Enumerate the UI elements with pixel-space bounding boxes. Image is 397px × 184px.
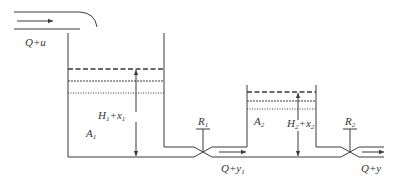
two-tank-diagram: Q+u H1+x1 A1 R1 Q+y1 H2+: [0, 0, 397, 184]
valve-1-label: R1: [197, 115, 208, 129]
tank-1-height-label: H1+x1: [97, 109, 125, 123]
outflow-1-label: Q+y1: [221, 162, 245, 176]
tank-2-height-label: H2+x2: [286, 117, 315, 131]
valve-1-stem: [196, 129, 210, 152]
tank-1: [68, 33, 164, 157]
outflow-2-label: Q+y: [361, 162, 381, 174]
valve-2-label: R2: [344, 115, 356, 129]
valve-2-stem: [343, 129, 357, 152]
tank-2-area-label: A2: [253, 115, 265, 129]
inflow-label: Q+u: [25, 36, 46, 48]
tank-1-area-label: A1: [85, 127, 96, 141]
